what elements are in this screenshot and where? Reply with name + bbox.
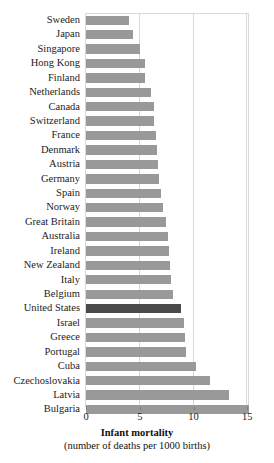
bar-row: Canada: [0, 101, 274, 115]
bar: [86, 390, 229, 399]
category-label: Greece: [0, 331, 80, 343]
bar-highlighted: [86, 304, 181, 313]
category-label: Netherlands: [0, 86, 80, 98]
bar-row: Greece: [0, 331, 274, 345]
bar-row: Denmark: [0, 144, 274, 158]
category-label: New Zealand: [0, 259, 80, 271]
bar-row: Italy: [0, 274, 274, 288]
category-label: Italy: [0, 274, 80, 286]
bar: [86, 232, 168, 241]
bar-row: Switzerland: [0, 115, 274, 129]
bar-row: France: [0, 129, 274, 143]
x-tick-label: 0: [83, 410, 88, 423]
bar-row: Spain: [0, 187, 274, 201]
bar: [86, 30, 133, 39]
bar: [86, 116, 154, 125]
category-label: Portugal: [0, 346, 80, 358]
bar-row: Netherlands: [0, 86, 274, 100]
category-label: Ireland: [0, 245, 80, 257]
chart-caption: Infant mortality (number of deaths per 1…: [0, 426, 274, 452]
bar-row: Czechoslovakia: [0, 375, 274, 389]
caption-title: Infant mortality: [0, 426, 274, 439]
bar: [86, 59, 145, 68]
bar-row: Sweden: [0, 14, 274, 28]
bar-row: Austria: [0, 158, 274, 172]
bar-row: Cuba: [0, 360, 274, 374]
category-label: Germany: [0, 173, 80, 185]
bar-row: Israel: [0, 317, 274, 331]
bar: [86, 145, 157, 154]
bar-row: United States: [0, 302, 274, 316]
bar: [86, 333, 185, 342]
bar: [86, 347, 186, 356]
bar-rows: SwedenJapanSingaporeHong KongFinlandNeth…: [0, 14, 274, 418]
category-label: Japan: [0, 28, 80, 40]
category-label: Hong Kong: [0, 57, 80, 69]
x-tick-label: 10: [188, 410, 199, 423]
bar: [86, 174, 159, 183]
bar-row: Norway: [0, 201, 274, 215]
category-label: Belgium: [0, 288, 80, 300]
bar: [86, 44, 140, 53]
bar-row: Australia: [0, 230, 274, 244]
infant-mortality-bar-chart: SwedenJapanSingaporeHong KongFinlandNeth…: [0, 0, 274, 463]
bar: [86, 246, 169, 255]
category-label: Spain: [0, 187, 80, 199]
category-label: Denmark: [0, 144, 80, 156]
bar-row: Portugal: [0, 346, 274, 360]
category-label: Czechoslovakia: [0, 375, 80, 387]
bar: [86, 275, 171, 284]
category-label: Norway: [0, 201, 80, 213]
bar: [86, 217, 166, 226]
x-axis: 051015: [85, 407, 250, 425]
bar-row: Japan: [0, 28, 274, 42]
bar: [86, 131, 156, 140]
category-label: Canada: [0, 101, 80, 113]
bar: [86, 189, 161, 198]
x-tick-label: 15: [242, 410, 253, 423]
caption-subtitle: (number of deaths per 1000 births): [0, 439, 274, 452]
bar: [86, 88, 151, 97]
bar: [86, 102, 154, 111]
category-label: Australia: [0, 230, 80, 242]
category-label: Finland: [0, 72, 80, 84]
category-label: Singapore: [0, 43, 80, 55]
bar: [86, 290, 173, 299]
bar: [86, 261, 170, 270]
bar-row: Latvia: [0, 389, 274, 403]
bar-row: Belgium: [0, 288, 274, 302]
bar: [86, 16, 129, 25]
bar: [86, 318, 184, 327]
category-label: Israel: [0, 317, 80, 329]
bar-row: Ireland: [0, 245, 274, 259]
category-label: United States: [0, 302, 80, 314]
bar: [86, 203, 163, 212]
bar-row: Hong Kong: [0, 57, 274, 71]
bar-row: Great Britain: [0, 216, 274, 230]
bar-row: Germany: [0, 173, 274, 187]
category-label: Great Britain: [0, 216, 80, 228]
category-label: Switzerland: [0, 115, 80, 127]
category-label: Latvia: [0, 389, 80, 401]
category-label: France: [0, 129, 80, 141]
bar: [86, 362, 196, 371]
category-label: Cuba: [0, 360, 80, 372]
bar: [86, 376, 210, 385]
bar: [86, 73, 145, 82]
x-tick-label: 5: [137, 410, 142, 423]
bar-row: Finland: [0, 72, 274, 86]
category-label: Austria: [0, 158, 80, 170]
bar-row: Singapore: [0, 43, 274, 57]
bar: [86, 160, 158, 169]
category-label: Bulgaria: [0, 403, 80, 415]
bar-row: New Zealand: [0, 259, 274, 273]
category-label: Sweden: [0, 14, 80, 26]
